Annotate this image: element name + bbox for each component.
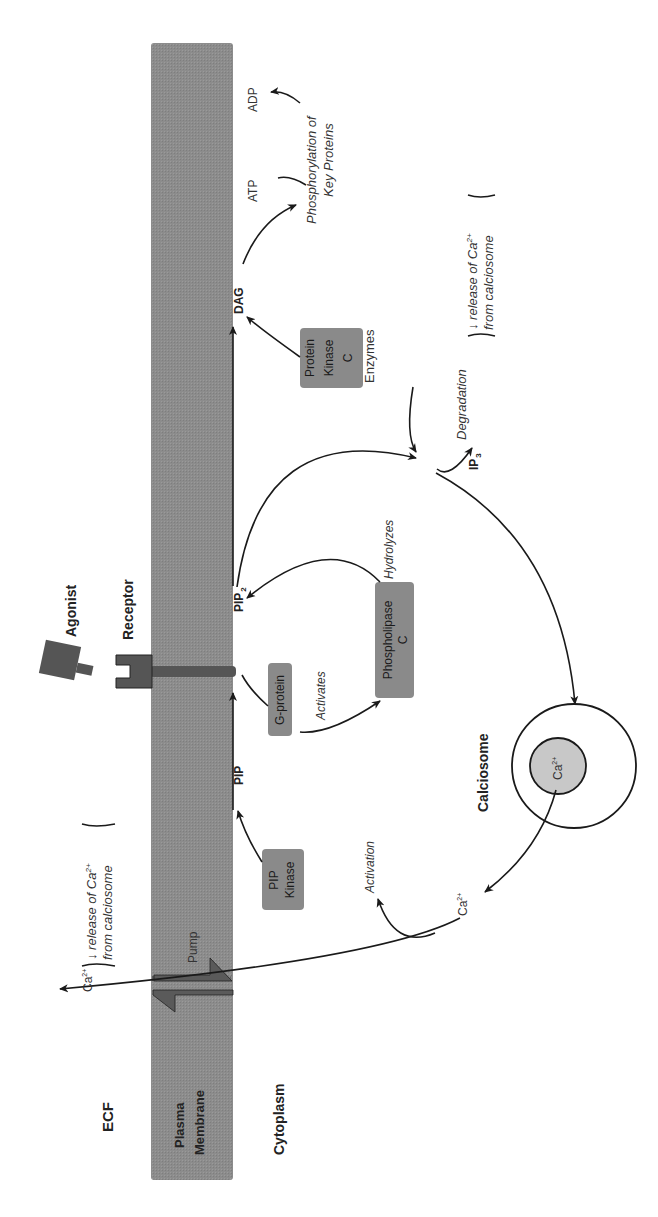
- receptor-label: Receptor: [120, 579, 136, 640]
- agonist-label: Agonist: [63, 585, 79, 637]
- agonist-icon: [39, 640, 94, 681]
- ip3-to-calciosome-arrow: [436, 473, 575, 704]
- activation-label: Activation: [363, 841, 377, 894]
- receptor-gprotein-line: [242, 675, 268, 706]
- activates-arrow: [300, 701, 380, 732]
- atp-label: ATP: [246, 180, 260, 202]
- paren-right-top: [468, 195, 495, 197]
- hydrolyzes-label: Hydrolyzes: [382, 520, 396, 579]
- pip-label: PIP: [232, 766, 246, 785]
- paren-left-bottom: [82, 964, 115, 966]
- pip-kinase-line1: PIP: [267, 870, 281, 889]
- release-note-bottom-line1: ↓ release of Ca2+: [84, 863, 99, 960]
- dag-label: DAG: [232, 287, 246, 314]
- enzymes-label: Enzymes: [362, 329, 377, 383]
- enzymes-arrow: [410, 387, 416, 452]
- release-note-top-line2: from calciosome: [481, 235, 496, 330]
- paren-left-top: [468, 334, 495, 336]
- ecf-label: ECF: [99, 1102, 116, 1132]
- ca-efflux-arrow: [60, 918, 460, 989]
- phospholipase-line1: Phospholipase: [381, 600, 395, 679]
- adp-label: ADP: [246, 87, 260, 112]
- dag-to-phosphorylation-arrow: [243, 205, 296, 264]
- release-note-top-line1: ↓ release of Ca2+: [465, 233, 480, 330]
- membrane-label-line1: Plasma: [172, 1102, 187, 1148]
- pip2-label: PIP2: [232, 587, 248, 612]
- pathway-diagram: ECF Plasma Membrane Cytoplasm Agonist Re…: [0, 0, 658, 1217]
- phosphorylation-label-line2: Key Proteins: [321, 123, 336, 197]
- ip3-label: IP3: [467, 453, 483, 470]
- pip-kinase-arrow: [238, 811, 262, 862]
- activates-label: Activates: [314, 671, 328, 721]
- phosphorylation-label-line1: Phosphorylation of: [304, 115, 319, 224]
- paren-right-bottom: [82, 824, 115, 826]
- atp-line: [278, 177, 306, 185]
- cytoplasm-label: Cytoplasm: [271, 1083, 287, 1155]
- pkc-to-dag-arrow: [247, 317, 300, 357]
- release-note-bottom-line2: from calciosome: [100, 865, 115, 960]
- calciosome-to-ca-arrow: [485, 790, 556, 892]
- hydrolyzes-arrow: [247, 559, 380, 598]
- pump-label: Pump: [186, 931, 200, 963]
- pip-kinase-line2: Kinase: [283, 861, 297, 898]
- pkc-line2: Kinase: [322, 339, 336, 376]
- pkc-line1: Protein: [303, 339, 317, 377]
- g-protein-label: G-protein: [273, 675, 287, 725]
- calciosome-label: Calciosome: [475, 733, 491, 812]
- membrane-label-line2: Membrane: [192, 1090, 207, 1155]
- degradation-label: Degradation: [454, 369, 469, 440]
- phospholipase-line2: C: [396, 635, 410, 644]
- pkc-line3: C: [341, 353, 355, 362]
- ca-ecf-label: Ca2+: [81, 969, 95, 992]
- plasma-membrane: [151, 43, 233, 1180]
- ca-cytoplasm-label: Ca2+: [456, 893, 470, 916]
- adp-arrow: [271, 92, 300, 103]
